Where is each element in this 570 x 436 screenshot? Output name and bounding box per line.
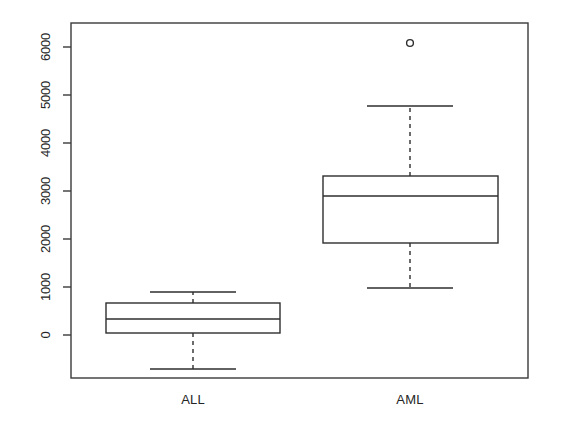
y-tick-label-2000: 2000 — [38, 225, 53, 253]
x-tick-label-all: ALL — [181, 392, 205, 407]
x-axis-tick-labels: ALL AML — [181, 392, 424, 407]
box-group-all — [106, 292, 280, 369]
y-tick-label-4000: 4000 — [38, 129, 53, 157]
aml-box — [323, 176, 498, 243]
y-axis-tick-labels: 0 1000 2000 3000 4000 5000 6000 — [38, 33, 53, 338]
plot-frame — [71, 23, 528, 378]
boxplot-figure: 0 1000 2000 3000 4000 5000 6000 — [0, 0, 570, 436]
aml-outlier-point — [407, 40, 414, 47]
x-tick-label-aml: AML — [396, 392, 423, 407]
y-tick-label-5000: 5000 — [38, 81, 53, 109]
plot-canvas: 0 1000 2000 3000 4000 5000 6000 — [0, 0, 570, 436]
y-tick-label-6000: 6000 — [38, 33, 53, 61]
all-box — [106, 303, 280, 333]
y-axis-ticks — [63, 47, 71, 335]
y-tick-label-1000: 1000 — [38, 273, 53, 301]
y-tick-label-0: 0 — [38, 331, 53, 338]
box-group-aml — [323, 40, 498, 288]
y-tick-label-3000: 3000 — [38, 177, 53, 205]
